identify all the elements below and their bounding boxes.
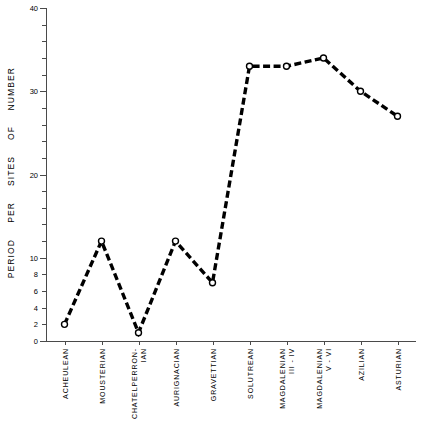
x-axis-label: MAGDALENIANIII - IV xyxy=(278,348,296,409)
x-axis-label: AURIGNACIAN xyxy=(171,348,180,407)
y-tick-major xyxy=(40,341,47,342)
y-axis-title-word-per: PER xyxy=(7,202,16,223)
x-axis-label-line: ACHEULEAN xyxy=(60,348,69,399)
x-tick xyxy=(287,341,288,345)
x-axis-label-line: MAGDALENIAN xyxy=(278,348,287,409)
x-axis-label: MAGDALENIANV - VI xyxy=(315,348,333,409)
x-axis-label-line: MOUSTERIAN xyxy=(97,348,106,404)
x-tick xyxy=(139,341,140,345)
data-point-marker[interactable] xyxy=(99,238,105,244)
data-point-marker[interactable] xyxy=(395,113,401,119)
series-polyline xyxy=(65,58,398,333)
x-axis-label: CHATELPERRON-IAN xyxy=(130,348,148,419)
data-point-marker[interactable] xyxy=(210,280,216,286)
data-point-marker[interactable] xyxy=(136,330,142,336)
data-series-line xyxy=(46,8,416,341)
x-axis-label: SOLUTREAN xyxy=(245,348,254,399)
x-tick xyxy=(213,341,214,345)
x-axis-label: ASTURIAN xyxy=(393,348,402,391)
x-axis-label-line: ASTURIAN xyxy=(393,348,402,391)
x-axis-label-line: III - IV xyxy=(287,348,296,374)
y-axis-title: NUMBER OF SITES PER PERIOD xyxy=(2,0,20,345)
data-point-marker[interactable] xyxy=(321,55,327,61)
y-tick-label: 0 xyxy=(34,337,38,346)
y-tick-label: 30 xyxy=(30,87,38,96)
x-axis-label-line: IAN xyxy=(139,348,148,362)
y-axis-title-word-sites: SITES xyxy=(7,156,16,186)
x-axis-label: AZILIAN xyxy=(356,348,365,381)
x-axis-label: GRAVETTIAN xyxy=(208,348,217,401)
chart-figure: NUMBER OF SITES PER PERIOD 0102030402468… xyxy=(0,0,423,424)
data-point-marker[interactable] xyxy=(284,63,290,69)
y-tick-label: 40 xyxy=(30,4,38,13)
y-tick-label-minor: 4 xyxy=(34,303,38,312)
y-axis-title-word-period: PERIOD xyxy=(7,239,16,278)
x-tick xyxy=(398,341,399,345)
x-tick xyxy=(176,341,177,345)
data-point-marker[interactable] xyxy=(62,321,68,327)
x-axis-label-line: SOLUTREAN xyxy=(245,348,254,399)
x-tick xyxy=(102,341,103,345)
x-axis-label-line: MAGDALENIAN xyxy=(315,348,324,409)
plot-area: 0102030402468 xyxy=(46,8,416,341)
data-point-marker[interactable] xyxy=(173,238,179,244)
x-axis-label-line: AURIGNACIAN xyxy=(171,348,180,407)
y-tick-label-minor: 2 xyxy=(34,320,38,329)
data-point-marker[interactable] xyxy=(358,88,364,94)
x-axis-label: ACHEULEAN xyxy=(60,348,69,399)
y-tick-label: 10 xyxy=(30,253,38,262)
x-axis-label-line: CHATELPERRON- xyxy=(130,348,139,419)
data-point-marker[interactable] xyxy=(247,63,253,69)
x-axis-labels: ACHEULEANMOUSTERIANCHATELPERRON-IANAURIG… xyxy=(46,348,416,422)
x-tick xyxy=(65,341,66,345)
x-axis-label: MOUSTERIAN xyxy=(97,348,106,404)
x-tick xyxy=(361,341,362,345)
x-axis-label-line: GRAVETTIAN xyxy=(208,348,217,401)
y-tick-label-minor: 8 xyxy=(34,270,38,279)
y-tick-label-minor: 6 xyxy=(34,287,38,296)
x-axis-label-line: V - VI xyxy=(324,348,333,371)
x-tick xyxy=(250,341,251,345)
y-axis-title-word-number: NUMBER xyxy=(7,67,16,110)
x-tick xyxy=(324,341,325,345)
x-axis-label-line: AZILIAN xyxy=(356,348,365,381)
y-axis-title-word-of: OF xyxy=(7,126,16,140)
y-tick-label: 20 xyxy=(30,170,38,179)
